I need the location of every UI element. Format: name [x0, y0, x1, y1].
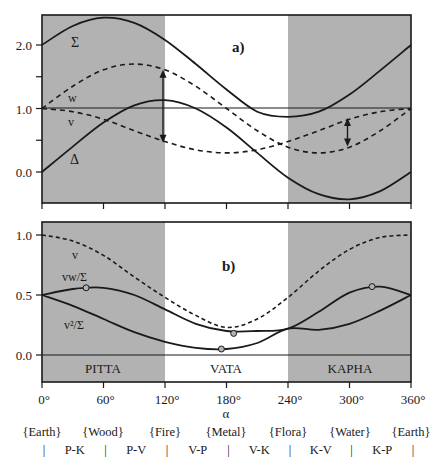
- region-vata: VATA: [210, 361, 243, 376]
- x-tick-label: 360°: [401, 392, 426, 407]
- panel-b-shade-kapha: [288, 222, 411, 382]
- transition-label: V-P: [188, 443, 207, 457]
- panel-a-label: a): [232, 39, 245, 56]
- panel-a-ytick-2: 2.0: [16, 38, 32, 53]
- panel-a-ytick-0: 0.0: [16, 165, 32, 180]
- label-vw-sigma: vw/Σ: [62, 270, 87, 284]
- panel-b-label: b): [222, 258, 235, 275]
- transition-separator: |: [104, 443, 107, 457]
- label-sigma: Σ: [71, 35, 79, 50]
- x-axis-title: α: [223, 406, 230, 421]
- transition-label: P-V: [126, 443, 146, 457]
- x-tick-label: 60°: [96, 392, 114, 407]
- x-tick-label: 240°: [278, 392, 303, 407]
- label-w: w: [68, 91, 77, 105]
- label-v: v: [68, 115, 74, 129]
- x-tick-label: 0°: [38, 392, 50, 407]
- element-label: {Earth}: [391, 425, 430, 439]
- panel-b-ytick-0: 0.0: [16, 348, 32, 363]
- transition-label: P-K: [65, 443, 85, 457]
- figure: 2.0 1.0 0.0 a) Σ w v Δ 1.0 0.5 0.0 b) v …: [0, 0, 438, 467]
- panel-a-shade-pitta: [42, 15, 165, 203]
- panel-a-shade-kapha: [288, 15, 411, 203]
- element-label: {Fire}: [149, 425, 181, 439]
- element-label: {Wood}: [82, 425, 124, 439]
- transition-separator: |: [289, 443, 292, 457]
- region-kapha: KAPHA: [328, 361, 373, 376]
- transition-separator: |: [350, 443, 353, 457]
- transition-label: K-V: [310, 443, 332, 457]
- x-tick-label: 300°: [339, 392, 364, 407]
- transition-separator: |: [43, 443, 46, 457]
- element-label: {Flora}: [269, 425, 307, 439]
- transition-separator: |: [412, 443, 415, 457]
- x-axis-labels: 0°60°120°180°240°300°360°: [38, 392, 425, 407]
- element-label: {Metal}: [205, 425, 246, 439]
- transition-label: V-K: [249, 443, 270, 457]
- extremum-marker: [231, 330, 237, 336]
- region-pitta: PITTA: [85, 361, 121, 376]
- transition-label: K-P: [372, 443, 392, 457]
- transition-separator: |: [227, 443, 230, 457]
- label-v2-sigma: v²/Σ: [64, 318, 84, 332]
- panel-a-ytick-1: 1.0: [16, 102, 32, 117]
- extremum-marker: [218, 346, 224, 352]
- x-tick-label: 120°: [155, 392, 180, 407]
- label-b-v: v: [72, 248, 78, 262]
- panel-b: 1.0 0.5 0.0 b) v vw/Σ v²/Σ PITTA VATA KA…: [16, 222, 411, 388]
- x-tick-label: 180°: [216, 392, 241, 407]
- extremum-marker: [83, 285, 89, 291]
- panel-a: 2.0 1.0 0.0 a) Σ w v Δ: [16, 15, 411, 209]
- panel-b-ytick-05: 0.5: [16, 288, 32, 303]
- label-delta: Δ: [70, 152, 79, 167]
- element-label: {Water}: [329, 425, 371, 439]
- element-labels: {Earth}{Wood}{Fire}{Metal}{Flora}{Water}…: [22, 425, 430, 439]
- element-label: {Earth}: [22, 425, 61, 439]
- transition-labels: |||||||P-KP-VV-PV-KK-VK-P: [43, 443, 415, 457]
- extremum-marker: [369, 284, 375, 290]
- panel-b-ytick-1: 1.0: [16, 228, 32, 243]
- transition-separator: |: [166, 443, 169, 457]
